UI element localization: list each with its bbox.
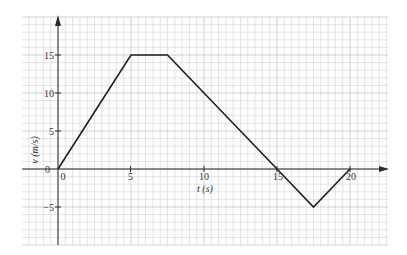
axes: [22, 15, 389, 245]
y-axis-title: v (m/s): [29, 136, 41, 164]
x-axis-arrow-icon: [379, 166, 389, 172]
y-tick-label-5: 5: [49, 126, 54, 137]
y-origin-label: 0: [45, 164, 50, 175]
grid: [22, 17, 388, 245]
x-tick-label-5: 5: [128, 171, 133, 182]
y-tick-label-15: 15: [44, 50, 54, 61]
velocity-time-chart: 0 0 5 10 15 20 15 10 5 −5 t (s) v (m/s): [0, 0, 407, 255]
y-tick-label-10: 10: [44, 88, 54, 99]
x-axis-title: t (s): [197, 183, 214, 195]
x-tick-label-10: 10: [199, 171, 209, 182]
x-tick-label-15: 15: [273, 171, 283, 182]
x-tick-label-0: 0: [61, 171, 66, 182]
y-tick-label-neg5: −5: [43, 202, 54, 213]
x-tick-label-20: 20: [346, 171, 356, 182]
